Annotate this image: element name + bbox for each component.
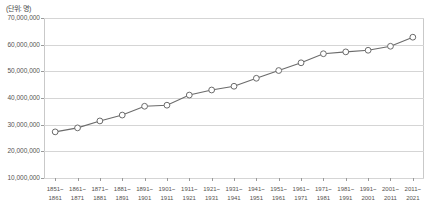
y-axis-tick-mark <box>41 18 44 19</box>
x-axis-tick-mark <box>368 178 369 181</box>
y-axis-tick-mark <box>41 71 44 72</box>
y-axis-tick-mark <box>41 45 44 46</box>
x-axis-tick-mark <box>78 178 79 181</box>
y-axis-tick-mark <box>41 178 44 179</box>
y-axis-tick-mark <box>41 98 44 99</box>
unit-label: (단위: 명) <box>6 3 31 13</box>
x-axis-tick-mark <box>122 178 123 181</box>
x-axis-tick-mark <box>390 178 391 181</box>
y-axis-tick-label: 30,000,000 <box>0 121 40 128</box>
gridline <box>44 18 424 19</box>
x-axis-tick-mark <box>323 178 324 181</box>
x-axis-tick-mark <box>167 178 168 181</box>
y-axis-tick-label: 60,000,000 <box>0 41 40 48</box>
y-axis-tick-label: 70,000,000 <box>0 14 40 21</box>
x-axis-tick-mark <box>212 178 213 181</box>
y-axis-tick-label: 40,000,000 <box>0 94 40 101</box>
x-axis-tick-label: 2011~2021 <box>396 185 428 202</box>
x-axis-tick-mark <box>189 178 190 181</box>
x-axis-tick-mark <box>413 178 414 181</box>
y-axis-tick-label: 50,000,000 <box>0 67 40 74</box>
x-axis-tick-mark <box>256 178 257 181</box>
x-axis-tick-mark <box>100 178 101 181</box>
x-axis-tick-mark <box>346 178 347 181</box>
population-line-chart: (단위: 명) 70,000,00060,000,00050,000,00040… <box>0 0 428 223</box>
plot-area <box>44 18 424 178</box>
x-axis-tick-mark <box>55 178 56 181</box>
x-axis-tick-mark <box>301 178 302 181</box>
y-axis-tick-mark <box>41 125 44 126</box>
x-axis-tick-mark <box>234 178 235 181</box>
y-axis-tick-mark <box>41 151 44 152</box>
gridline <box>44 125 424 126</box>
gridline <box>44 71 424 72</box>
x-axis-tick-mark <box>145 178 146 181</box>
x-tick-range-end: 2021 <box>396 194 428 203</box>
x-axis-tick-mark <box>279 178 280 181</box>
y-axis-tick-label: 10,000,000 <box>0 174 40 181</box>
y-axis-tick-label: 20,000,000 <box>0 147 40 154</box>
gridline <box>44 98 424 99</box>
gridline <box>44 45 424 46</box>
x-tick-range-start: 2011~ <box>396 185 428 194</box>
gridline <box>44 151 424 152</box>
